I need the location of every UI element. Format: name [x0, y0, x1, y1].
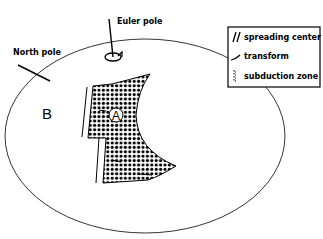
euler-pole-axis: [109, 19, 113, 57]
spreading-center-edge: [82, 87, 87, 137]
north-pole-label: North pole: [13, 48, 61, 57]
spreading-center-edge: [96, 138, 99, 183]
plate-a-region: [88, 74, 176, 183]
plate-tectonics-diagram: North pole Euler pole B A spreading cent…: [0, 0, 323, 239]
legend-label-transform: transform: [244, 52, 289, 61]
plate-b-label: B: [42, 105, 52, 122]
legend-label-spreading-center: spreading center: [244, 33, 321, 42]
plate-a-label: A: [112, 109, 120, 123]
legend-label-subduction-zone: subduction zone: [244, 72, 319, 81]
north-pole-axis: [18, 65, 50, 81]
legend: spreading center transform subduction zo…: [228, 27, 321, 87]
euler-pole-label: Euler pole: [117, 17, 163, 26]
